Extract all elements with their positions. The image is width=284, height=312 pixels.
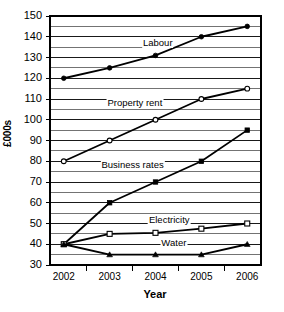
series-business-rates bbox=[62, 128, 250, 247]
y-tick-label: 110 bbox=[12, 93, 42, 104]
series-line bbox=[64, 26, 247, 78]
y-tick-label: 100 bbox=[12, 114, 42, 125]
line-chart: £000s Year 30405060708090100110120130140… bbox=[0, 0, 284, 312]
data-point-open-square bbox=[245, 221, 250, 226]
data-point-filled-circle bbox=[107, 66, 112, 71]
y-tick-label: 140 bbox=[12, 31, 42, 42]
data-point-filled-circle bbox=[153, 53, 158, 58]
y-tick-label: 90 bbox=[12, 135, 42, 146]
data-point-open-square bbox=[107, 231, 112, 236]
x-tick-label: 2004 bbox=[136, 271, 176, 282]
data-point-filled-square bbox=[245, 128, 249, 132]
data-point-open-circle bbox=[107, 138, 112, 143]
y-tick-label: 70 bbox=[12, 176, 42, 187]
data-point-filled-circle bbox=[245, 24, 250, 29]
data-point-filled-square bbox=[153, 180, 157, 184]
y-tick-label: 50 bbox=[12, 218, 42, 229]
y-tick-label: 30 bbox=[12, 259, 42, 270]
series-label-electricity: Electricity bbox=[148, 215, 191, 225]
data-point-open-circle bbox=[199, 97, 204, 102]
y-tick-label: 130 bbox=[12, 52, 42, 63]
data-point-filled-circle bbox=[199, 34, 204, 39]
x-tick-label: 2005 bbox=[181, 271, 221, 282]
data-point-open-circle bbox=[245, 86, 250, 91]
series-label-water: Water bbox=[160, 238, 187, 248]
x-tick-label: 2006 bbox=[227, 271, 267, 282]
data-point-open-circle bbox=[153, 117, 158, 122]
x-tick-label: 2002 bbox=[44, 271, 84, 282]
x-axis-title: Year bbox=[45, 288, 265, 300]
data-point-open-square bbox=[153, 230, 158, 235]
y-tick-label: 60 bbox=[12, 197, 42, 208]
y-axis-title: £000s bbox=[2, 111, 13, 157]
x-tick-label: 2003 bbox=[90, 271, 130, 282]
series-label-labour: Labour bbox=[142, 38, 174, 48]
y-tick-label: 40 bbox=[12, 238, 42, 249]
data-point-filled-square bbox=[107, 201, 111, 205]
data-point-filled-circle bbox=[61, 76, 66, 81]
y-tick-label: 120 bbox=[12, 72, 42, 83]
data-point-filled-square bbox=[199, 159, 203, 163]
data-point-open-square bbox=[199, 226, 204, 231]
data-point-open-circle bbox=[61, 159, 66, 164]
y-tick-label: 80 bbox=[12, 155, 42, 166]
y-tick-label: 150 bbox=[12, 10, 42, 21]
series-labour bbox=[61, 24, 249, 80]
series-label-business-rates: Business rates bbox=[100, 160, 164, 170]
series-label-property-rent: Property rent bbox=[106, 98, 163, 108]
